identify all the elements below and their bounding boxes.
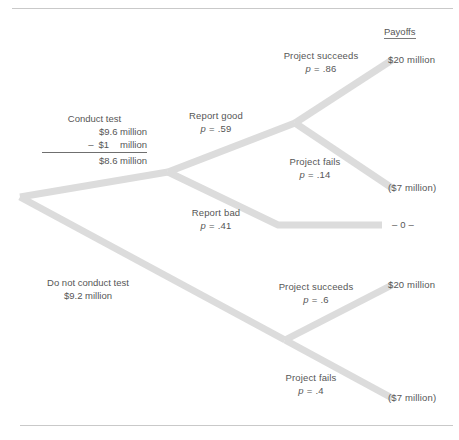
- label-notest-project-succeeds-prob: p=.6: [279, 294, 354, 307]
- p-symbol: p: [300, 169, 305, 180]
- label-test-project-succeeds-text: Project succeeds: [284, 50, 359, 61]
- conduct-test-title: Conduct test: [42, 112, 147, 125]
- label-report-bad-prob: p=.41: [192, 220, 241, 233]
- payoff-notest-succeeds: $20 million: [388, 279, 435, 292]
- payoffs-header-label: Payoffs: [384, 26, 416, 39]
- label-test-project-succeeds-prob: p=.86: [284, 63, 359, 76]
- branch-conduct-test: [20, 172, 168, 197]
- conduct-test-cost-row: –$1million: [42, 138, 147, 153]
- payoff-good-succeeds: $20 million: [388, 54, 435, 67]
- no-test-value: $9.2 million: [47, 289, 129, 302]
- payoffs-header: Payoffs: [384, 26, 416, 37]
- p-value: .4: [315, 385, 323, 396]
- p-value: .59: [218, 123, 232, 134]
- decision-tree-figure: Payoffs Conduct test $9.6 million –$1mil…: [0, 0, 459, 440]
- label-report-good-text: Report good: [189, 110, 243, 121]
- payoff-notest-succeeds-text: $20 million: [388, 279, 435, 290]
- payoff-good-succeeds-text: $20 million: [388, 54, 435, 65]
- label-notest-project-fails-text: Project fails: [285, 372, 336, 383]
- conduct-test-minus-sign: –: [88, 139, 93, 150]
- p-symbol: p: [303, 294, 308, 305]
- payoff-report-bad: – 0 –: [392, 219, 414, 232]
- payoff-report-bad-text: – 0 –: [392, 219, 414, 230]
- label-test-project-fails-prob: p=.14: [289, 169, 340, 182]
- label-notest-project-succeeds-text: Project succeeds: [279, 281, 354, 292]
- label-report-bad: Report bad p=.41: [192, 207, 241, 232]
- equals-symbol: =: [307, 385, 313, 396]
- p-value: .6: [320, 294, 328, 305]
- label-notest-project-succeeds: Project succeeds p=.6: [279, 281, 354, 306]
- p-symbol: p: [306, 63, 311, 74]
- label-test-project-succeeds: Project succeeds p=.86: [284, 50, 359, 75]
- equals-symbol: =: [209, 220, 215, 231]
- equals-symbol: =: [308, 169, 314, 180]
- no-test-block: Do not conduct test $9.2 million: [47, 276, 129, 302]
- conduct-test-cost-value: $1: [98, 139, 109, 150]
- conduct-test-gross-value: $9.6 million: [42, 125, 147, 138]
- p-value: .86: [323, 63, 337, 74]
- conduct-test-net-value: $8.6 million: [42, 153, 147, 167]
- p-value: .41: [218, 220, 232, 231]
- payoff-good-fails: ($7 million): [388, 182, 436, 195]
- label-notest-project-fails: Project fails p=.4: [285, 372, 336, 397]
- label-report-bad-text: Report bad: [192, 207, 241, 218]
- payoff-good-fails-text: ($7 million): [388, 182, 436, 193]
- label-report-good-prob: p=.59: [189, 123, 243, 136]
- p-symbol: p: [201, 123, 206, 134]
- label-report-good: Report good p=.59: [189, 110, 243, 135]
- p-value: .14: [317, 169, 331, 180]
- payoff-notest-fails-text: ($7 million): [388, 392, 436, 403]
- conduct-test-block: Conduct test $9.6 million –$1million $8.…: [42, 112, 147, 167]
- equals-symbol: =: [314, 63, 320, 74]
- p-symbol: p: [201, 220, 206, 231]
- label-test-project-fails-text: Project fails: [289, 156, 340, 167]
- label-test-project-fails: Project fails p=.14: [289, 156, 340, 181]
- branch-do-not-conduct-test: [20, 197, 285, 340]
- label-notest-project-fails-prob: p=.4: [285, 385, 336, 398]
- equals-symbol: =: [312, 294, 318, 305]
- conduct-test-cost-unit: million: [120, 139, 147, 150]
- no-test-title: Do not conduct test: [47, 276, 129, 289]
- p-symbol: p: [298, 385, 303, 396]
- payoff-notest-fails: ($7 million): [388, 392, 436, 405]
- equals-symbol: =: [209, 123, 215, 134]
